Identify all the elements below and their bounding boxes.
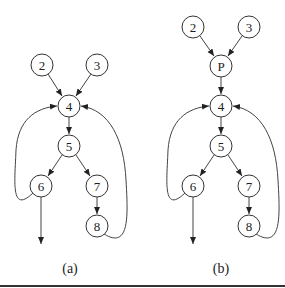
svg-text:4: 4 [66, 99, 73, 114]
edge-3-4 [76, 74, 91, 96]
node-3: 3 [86, 54, 108, 76]
node-6: 6 [182, 175, 204, 197]
edge-5-6 [200, 155, 214, 176]
node-7: 7 [86, 175, 108, 197]
edge-3-p [228, 36, 242, 56]
node-2: 2 [31, 54, 53, 76]
svg-text:3: 3 [94, 58, 101, 73]
svg-text:5: 5 [66, 139, 73, 154]
svg-text:5: 5 [218, 139, 225, 154]
svg-text:7: 7 [94, 179, 101, 194]
node-5: 5 [58, 135, 80, 157]
svg-text:8: 8 [246, 219, 253, 234]
node-6: 6 [30, 175, 52, 197]
node-5: 5 [210, 135, 232, 157]
edge-5-6 [48, 155, 62, 176]
svg-text:6: 6 [190, 179, 197, 194]
node-3: 3 [238, 16, 260, 38]
node-2: 2 [182, 16, 204, 38]
control-flow-figure: 2 3 4 5 6 7 8 2 3 P 4 5 6 7 8 (a) (b) [0, 0, 285, 288]
edge-2-p [200, 36, 214, 56]
node-4: 4 [58, 95, 80, 117]
node-p: P [210, 55, 232, 77]
panel-b-label: (b) [213, 261, 230, 277]
svg-text:3: 3 [246, 20, 253, 35]
bottom-rule [0, 285, 285, 287]
svg-text:6: 6 [38, 179, 45, 194]
node-8: 8 [238, 215, 260, 237]
node-8: 8 [86, 215, 108, 237]
edge-5-7 [228, 155, 242, 176]
svg-text:2: 2 [39, 58, 46, 73]
svg-text:7: 7 [246, 179, 253, 194]
node-4: 4 [210, 95, 232, 117]
node-7: 7 [238, 175, 260, 197]
panel-a-nodes: 2 3 4 5 6 7 8 [30, 54, 108, 237]
panel-a-label: (a) [62, 261, 78, 277]
svg-text:4: 4 [218, 99, 225, 114]
edge-2-4 [48, 74, 62, 96]
edge-5-7 [76, 155, 90, 176]
svg-text:P: P [217, 59, 224, 74]
svg-text:8: 8 [94, 219, 101, 234]
svg-text:2: 2 [190, 20, 197, 35]
